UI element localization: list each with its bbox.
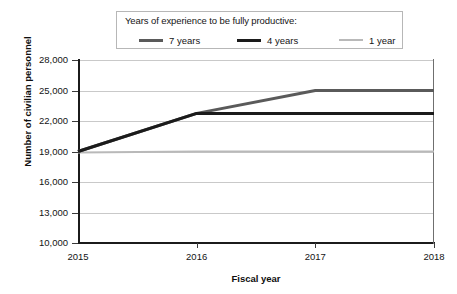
chart-figure: Years of experience to be fully producti… [0,0,457,294]
legend-line-swatch-icon [237,39,261,42]
x-axis-tick-mark [315,243,316,248]
x-axis-tick-mark [197,243,198,248]
x-axis-tick-label: 2017 [287,251,343,262]
legend-item-1-year: 1 year [339,32,395,48]
series-line-1-year [78,152,434,153]
x-axis-tick-label: 2015 [50,251,106,262]
legend-line-swatch-icon [139,39,163,42]
y-axis-title: Number of civilian personnel [22,17,33,187]
y-axis-tick-label: 10,000 [20,237,68,248]
legend-item-label: 4 years [267,35,298,46]
chart-legend: Years of experience to be fully producti… [116,11,403,49]
legend-item-label: 7 years [169,35,200,46]
y-axis-tick-label: 22,000 [20,115,68,126]
y-axis-tick-label: 25,000 [20,85,68,96]
x-axis-title: Fiscal year [78,273,434,284]
y-axis-tick-label: 13,000 [20,207,68,218]
y-axis-tick-label: 19,000 [20,146,68,157]
y-axis-tick-label: 16,000 [20,176,68,187]
x-axis-tick-label: 2016 [169,251,225,262]
legend-items: 7 years 4 years 1 year [117,32,404,48]
legend-line-swatch-icon [339,39,363,41]
legend-item-label: 1 year [369,35,395,46]
legend-item-4-years: 4 years [237,32,298,48]
series-line-4-years [78,113,434,151]
legend-title: Years of experience to be fully producti… [125,15,297,26]
y-axis-tick-label: 28,000 [20,54,68,65]
x-axis-tick-label: 2018 [406,251,457,262]
legend-item-7-years: 7 years [139,32,200,48]
x-axis-tick-mark [434,243,435,248]
series-line-7-years [78,91,434,152]
chart-series-layer [78,60,434,243]
